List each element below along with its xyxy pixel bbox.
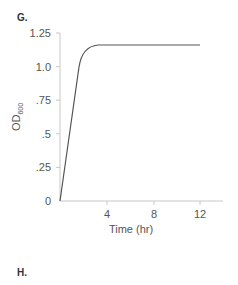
x-axis-title: Time (hr) bbox=[109, 223, 153, 235]
x-tick-12: 12 bbox=[194, 208, 206, 220]
y-tick-0.75: .75 bbox=[36, 94, 51, 106]
y-axis-title: OD600 bbox=[10, 103, 24, 131]
y-tick-1.25: 1.25 bbox=[30, 27, 51, 39]
y-tick-0: 0 bbox=[45, 195, 51, 207]
y-tick-0.25: .25 bbox=[36, 161, 51, 173]
y-tick-1.0: 1.0 bbox=[36, 61, 51, 73]
x-axis: 4 8 12 Time (hr) bbox=[60, 201, 223, 235]
y-tick-0.5: .5 bbox=[42, 128, 51, 140]
growth-chart: 1.25 1.0 .75 .5 .25 0 OD600 4 8 12 Time … bbox=[0, 0, 238, 285]
x-tick-8: 8 bbox=[151, 208, 157, 220]
growth-curve-line bbox=[60, 45, 200, 201]
x-tick-4: 4 bbox=[104, 208, 110, 220]
y-axis: 1.25 1.0 .75 .5 .25 0 OD600 bbox=[10, 27, 60, 207]
